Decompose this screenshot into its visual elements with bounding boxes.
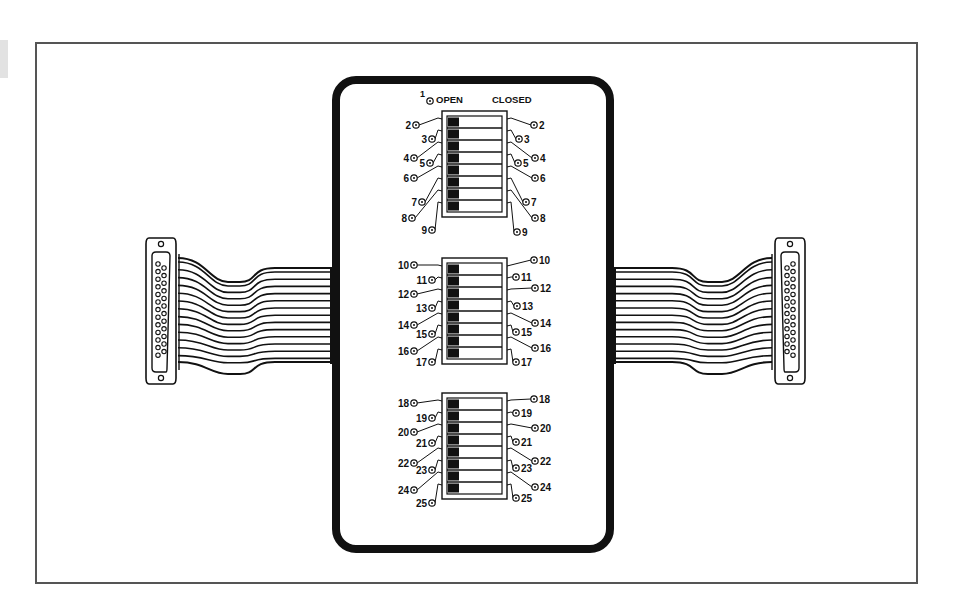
dip-switch-lever [448, 118, 459, 127]
pin-label: 17 [416, 357, 428, 368]
dip-switch-lever [448, 289, 459, 298]
dip-switch-lever [448, 190, 459, 199]
pin-label: 11 [521, 272, 532, 283]
pin-label: 14 [398, 320, 410, 331]
pin-label: 3 [421, 134, 427, 145]
cable-grommet-right [608, 268, 616, 364]
pin-label: 9 [522, 227, 528, 238]
pin-label: 17 [521, 357, 533, 368]
pin-label: 14 [540, 318, 552, 329]
pin-label: 11 [416, 275, 427, 286]
pin-label: 12 [398, 289, 410, 300]
pin-label: 19 [521, 408, 533, 419]
dip-switch-lever [448, 472, 459, 481]
pin-label: 16 [540, 343, 552, 354]
pin-label: 22 [398, 458, 410, 469]
dip-switch-lever [448, 448, 459, 457]
closed-header: CLOSED [492, 94, 532, 105]
cable-grommet-left [330, 268, 338, 364]
pin-label: 13 [416, 303, 428, 314]
pin-label: 9 [421, 225, 427, 236]
dip-switch-lever [448, 301, 459, 310]
pin-label: 24 [398, 485, 410, 496]
pin-1-label: 1 [420, 89, 425, 99]
ribbon-cable-right [610, 258, 772, 374]
dip-switch-lever [448, 484, 459, 493]
pin-label: 19 [416, 413, 428, 424]
pin-label: 6 [540, 173, 546, 184]
pin-label: 13 [522, 301, 534, 312]
dip-switch-lever [448, 412, 459, 421]
dip-switch-lever [448, 277, 459, 286]
pin-label: 20 [398, 427, 410, 438]
dip-switch-lever [448, 142, 459, 151]
breakout-box-diagram: OPEN CLOSED 1 23456789234567891011121314… [0, 0, 954, 614]
pin-label: 7 [531, 197, 537, 208]
pin-label: 21 [521, 437, 533, 448]
open-header: OPEN [436, 94, 463, 105]
pin-label: 23 [416, 465, 428, 476]
dip-switch-lever [448, 265, 459, 274]
pin-label: 15 [416, 329, 428, 340]
dip-switch-lever [448, 436, 459, 445]
dip-switch-lever [448, 178, 459, 187]
pin-label: 5 [523, 158, 529, 169]
pin-label: 7 [411, 197, 417, 208]
dip-switch-lever [448, 400, 459, 409]
dip-switch-lever [448, 202, 459, 211]
pin-label: 8 [401, 213, 407, 224]
dip-switch-lever [448, 460, 459, 469]
pin-label: 12 [540, 283, 552, 294]
pin-label: 10 [539, 255, 551, 266]
pin-label: 24 [540, 482, 552, 493]
ribbon-cable-left [178, 258, 336, 374]
pin-label: 8 [540, 213, 546, 224]
pin-label: 18 [539, 394, 551, 405]
pin-label: 10 [398, 260, 410, 271]
dip-switch-lever [448, 166, 459, 175]
pin-label: 2 [405, 120, 411, 131]
pin-label: 2 [539, 120, 545, 131]
dip-switch-lever [448, 130, 459, 139]
pin-label: 5 [419, 158, 425, 169]
dip-switch-lever [448, 154, 459, 163]
dip-switch-lever [448, 424, 459, 433]
pin-label: 25 [416, 498, 428, 509]
pin-label: 15 [521, 327, 533, 338]
pin-label: 3 [524, 134, 530, 145]
db25-connector-right [772, 238, 805, 384]
pin-label: 4 [403, 153, 409, 164]
dip-switch-lever [448, 337, 459, 346]
dip-switch-lever [448, 325, 459, 334]
pin-label: 18 [398, 398, 410, 409]
pin-label: 6 [403, 173, 409, 184]
dip-switch-lever [448, 313, 459, 322]
pin-label: 25 [521, 493, 533, 504]
db25-connector-left [146, 238, 179, 384]
pin-label: 16 [398, 346, 410, 357]
pin-label: 20 [540, 423, 552, 434]
pin-label: 22 [540, 456, 552, 467]
pin-label: 23 [521, 463, 533, 474]
dip-switch-lever [448, 349, 459, 358]
pin-label: 21 [416, 438, 428, 449]
pin-label: 4 [540, 153, 546, 164]
